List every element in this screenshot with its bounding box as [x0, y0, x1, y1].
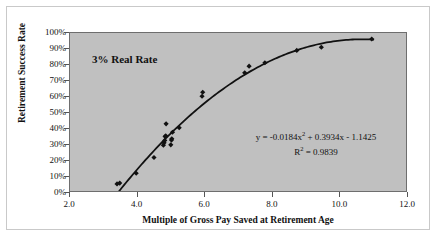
x-axis-tick-label: 12.0	[399, 199, 415, 210]
x-axis-tick-mark	[407, 192, 408, 197]
x-axis-tick-mark	[272, 192, 273, 197]
x-axis-tick-label: 10.0	[332, 199, 348, 210]
data-point-marker	[247, 64, 252, 69]
x-axis-tick-marks	[69, 192, 407, 198]
data-point-marker	[164, 121, 169, 126]
x-axis-tick-mark	[339, 192, 340, 197]
chart-container: Retirement Success Rate 0%10%20%30%40%50…	[0, 0, 443, 248]
x-axis-title: Multiple of Gross Pay Saved at Retiremen…	[69, 215, 407, 225]
data-point-marker	[200, 90, 205, 95]
data-point-marker	[294, 48, 299, 53]
y-axis-title: Retirement Success Rate	[17, 0, 27, 148]
x-axis-tick-mark	[69, 192, 70, 197]
data-point-marker	[199, 94, 204, 99]
data-point-marker	[151, 155, 156, 160]
x-axis-tick-label: 6.0	[199, 199, 210, 210]
x-axis-tick-label: 4.0	[131, 199, 142, 210]
x-axis-tick-labels: 2.04.06.08.010.012.0	[69, 199, 407, 213]
x-axis-tick-label: 2.0	[63, 199, 74, 210]
data-point-marker	[369, 36, 374, 41]
regression-equation-line: y = -0.0184x2 + 0.3934x - 1.1425	[230, 130, 402, 145]
data-point-marker	[319, 45, 324, 50]
plot-area: 3% Real Rate y = -0.0184x2 + 0.3934x - 1…	[69, 32, 407, 192]
equation-prefix: y = -0.0184x	[256, 132, 302, 142]
data-point-marker	[168, 142, 173, 147]
x-axis-tick-mark	[137, 192, 138, 197]
r-squared-line: R2 = 0.9839	[230, 145, 402, 160]
equation-suffix: + 0.3934x - 1.1425	[305, 132, 376, 142]
x-axis-tick-mark	[204, 192, 205, 197]
y-axis-tick-labels: 0%10%20%30%40%50%60%70%80%90%100%	[30, 32, 66, 192]
series-annotation-label: 3% Real Rate	[92, 53, 157, 65]
regression-equation-block: y = -0.0184x2 + 0.3934x - 1.1425 R2 = 0.…	[230, 130, 402, 160]
r-squared-value: = 0.9839	[303, 147, 337, 157]
x-axis-tick-label: 8.0	[266, 199, 277, 210]
